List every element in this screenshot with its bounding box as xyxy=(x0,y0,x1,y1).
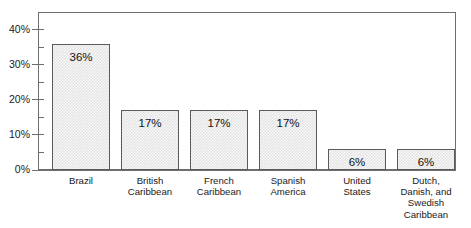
y-tick-minor xyxy=(38,12,44,13)
x-category-label: Spanish America xyxy=(254,175,323,197)
y-tick-major xyxy=(32,134,44,135)
bar-value-label: 17% xyxy=(191,117,247,130)
bar-value-label: 36% xyxy=(53,51,109,64)
y-tick-label: 40% xyxy=(0,24,30,35)
bar-chart: 0%10%20%30%40% 36%Brazil17%British Carib… xyxy=(0,0,471,228)
y-tick-label: 10% xyxy=(0,129,30,140)
bar[interactable]: 17% xyxy=(121,110,179,170)
y-tick-major xyxy=(32,64,44,65)
y-tick-minor xyxy=(38,152,44,153)
x-category-label: Dutch, Danish, and Swedish Caribbean xyxy=(392,175,461,220)
y-tick-major xyxy=(32,29,44,30)
x-category-label: United States xyxy=(323,175,392,197)
y-tick-minor xyxy=(38,47,44,48)
bar-value-label: 17% xyxy=(260,117,316,130)
bar-value-label: 17% xyxy=(122,117,178,130)
y-tick-major xyxy=(32,99,44,100)
bar[interactable]: 6% xyxy=(328,149,386,170)
y-axis-line xyxy=(38,12,39,171)
x-category-label: British Caribbean xyxy=(116,175,185,197)
y-tick-label: 30% xyxy=(0,59,30,70)
y-tick-minor xyxy=(38,117,44,118)
bar[interactable]: 17% xyxy=(190,110,248,170)
y-tick-label: 20% xyxy=(0,94,30,105)
bar[interactable]: 6% xyxy=(397,149,455,170)
bar[interactable]: 36% xyxy=(52,44,110,170)
bar-value-label: 6% xyxy=(329,156,385,169)
x-axis-baseline xyxy=(38,170,456,171)
x-category-label: French Caribbean xyxy=(185,175,254,197)
x-category-label: Brazil xyxy=(47,175,116,186)
bar-value-label: 6% xyxy=(398,156,454,169)
y-tick-minor xyxy=(38,82,44,83)
y-tick-label: 0% xyxy=(0,164,30,175)
bar[interactable]: 17% xyxy=(259,110,317,170)
